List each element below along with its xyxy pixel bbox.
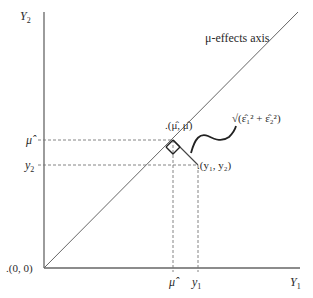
mu-effects-diagram: Y2 Y1 .(0, 0) μ-effects axis μ̂ y2 μ̂ y1… xyxy=(0,0,313,298)
x-axis-label: Y1 xyxy=(290,275,301,291)
mu-effects-axis-label: μ-effects axis xyxy=(205,31,270,45)
y1-x-label: y1 xyxy=(191,275,201,291)
mu-hat-x-label: μ̂ xyxy=(168,275,180,289)
origin-label: .(0, 0) xyxy=(6,262,33,275)
distance-pointer-squiggle xyxy=(191,126,236,153)
y-axis-label: Y2 xyxy=(20,9,31,25)
observation-point-label: .(y₁, y₂) xyxy=(197,159,232,172)
mu-hat-y-label: μ̂ xyxy=(25,133,37,147)
projection-point-label: .(μ̂, μ̂) xyxy=(165,119,193,132)
y2-y-label: y2 xyxy=(24,158,34,174)
residual-length-label: √(ε̂₁² + ε̂₂²) xyxy=(232,112,281,125)
